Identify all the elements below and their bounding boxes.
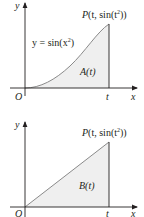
y-axis-label: y [14, 119, 20, 130]
point-p-label: P(t, sin(t2)) [81, 127, 127, 139]
x-axis-label: x [130, 91, 136, 102]
point-p-label: P(t, sin(t2)) [81, 9, 127, 21]
curve-equation-label: y = sin(x2) [32, 37, 74, 49]
y-axis-label: y [14, 0, 20, 11]
t-label: t [106, 91, 109, 102]
t-label: t [106, 208, 109, 217]
diagram: y x O t P(t, sin(t2)) y = sin(x2) A(t) y… [0, 0, 144, 217]
origin-label: O [15, 208, 22, 217]
top-graph: y x O t P(t, sin(t2)) y = sin(x2) A(t) [10, 0, 137, 102]
area-a-region [25, 24, 109, 88]
x-axis-label: x [130, 208, 136, 217]
bottom-graph: y x O t P(t, sin(t2)) B(t) [10, 119, 137, 217]
area-b-label: B(t) [79, 180, 95, 192]
area-a-label: A(t) [79, 66, 96, 78]
origin-label: O [15, 91, 22, 102]
